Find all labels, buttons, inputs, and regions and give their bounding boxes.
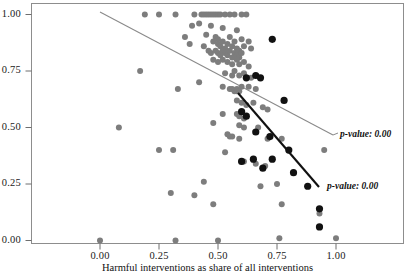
scatter-point <box>246 84 252 90</box>
scatter-point <box>252 128 259 135</box>
scatter-point <box>170 147 176 153</box>
scatter-point <box>220 84 226 90</box>
scatter-point <box>238 158 245 165</box>
scatter-point <box>173 12 179 18</box>
x-tick-label-075: 0.75 <box>257 250 297 261</box>
scatter-point <box>279 201 285 207</box>
scatter-point <box>173 238 179 244</box>
scatter-point <box>156 147 162 153</box>
scatter-point <box>97 238 103 244</box>
x-tick-label-000: 0.00 <box>80 250 120 261</box>
x-tick-label-100: 1.00 <box>316 250 356 261</box>
scatter-point <box>316 205 323 212</box>
scatter-point <box>274 181 280 187</box>
scatter-point <box>208 23 214 29</box>
scatter-point <box>227 34 233 40</box>
y-axis-ticks <box>26 15 32 241</box>
scatter-point <box>210 120 216 126</box>
scatter-point <box>246 39 252 45</box>
scatter-point <box>239 36 245 42</box>
scatter-point <box>316 223 323 230</box>
grey-line-p-value-annotation: p-value: 0.00 <box>340 129 391 139</box>
y-tick-label-050: 0.50 <box>0 121 21 132</box>
scatter-point <box>156 12 162 18</box>
scatter-point <box>215 238 221 244</box>
scatter-point <box>253 86 259 92</box>
scatter-point <box>116 125 122 131</box>
scatter-point <box>210 201 216 207</box>
scatter-point <box>201 43 207 49</box>
scatter-point <box>187 41 193 47</box>
scatter-point <box>241 59 247 65</box>
scatter-point <box>196 21 202 27</box>
scatter-point <box>203 32 209 38</box>
scatter-point <box>229 134 235 140</box>
x-tick-label-025: 0.25 <box>139 250 179 261</box>
scatter-point <box>182 34 188 40</box>
scatter-point <box>257 74 264 81</box>
scatter-plot-figure: 1.00 0.75 0.50 0.25 0.00 0.00 0.25 0.50 … <box>0 0 415 279</box>
scatter-point <box>175 86 181 92</box>
scatter-point <box>220 25 226 31</box>
scatter-point <box>232 39 238 45</box>
scatter-point <box>236 136 242 142</box>
scatter-point <box>239 84 245 90</box>
x-tick-label-050: 0.50 <box>198 250 238 261</box>
scatter-point <box>229 61 235 67</box>
black-line-p-value-annotation: p-value: 0.00 <box>327 181 378 191</box>
scatter-point <box>191 12 197 18</box>
scatter-point <box>290 169 297 176</box>
scatter-point <box>220 111 226 117</box>
scatter-point <box>232 12 238 18</box>
scatter-point <box>234 27 240 33</box>
scatter-point <box>304 183 311 190</box>
y-tick-label-000: 0.00 <box>0 234 21 245</box>
x-axis-ticks <box>100 244 336 250</box>
scatter-point <box>243 74 250 81</box>
scatter-point <box>246 63 252 69</box>
scatter-point <box>189 23 195 29</box>
scatter-point <box>333 235 339 241</box>
scatter-point <box>257 183 263 189</box>
y-tick-label-075: 0.75 <box>0 64 21 75</box>
scatter-point <box>265 106 271 112</box>
scatter-point <box>201 179 207 185</box>
scatter-point <box>137 68 143 74</box>
y-tick-label-025: 0.25 <box>0 177 21 188</box>
scatter-point <box>191 192 197 198</box>
scatter-point <box>243 113 250 120</box>
scatter-point <box>321 147 327 153</box>
scatter-point <box>142 12 148 18</box>
scatter-point <box>241 125 247 131</box>
scatter-point <box>222 70 228 76</box>
scatter-point <box>280 97 287 104</box>
scatter-point <box>232 68 238 74</box>
scatter-point <box>276 235 282 241</box>
scatter-point <box>248 45 254 51</box>
scatter-point <box>241 43 247 49</box>
scatter-point <box>250 156 257 163</box>
scatter-point <box>196 79 202 85</box>
scatter-point <box>259 165 266 172</box>
scatter-point <box>250 100 256 106</box>
scatter-point <box>269 36 276 43</box>
scatter-point <box>239 50 245 56</box>
y-tick-label-1: 1.00 <box>0 8 21 19</box>
scatter-point <box>269 156 276 163</box>
plot-canvas <box>0 0 415 279</box>
scatter-point <box>222 149 228 155</box>
scatter-point <box>243 12 249 18</box>
scatter-point <box>168 190 174 196</box>
x-axis-title: Harmful interventions as share of all in… <box>0 262 415 273</box>
